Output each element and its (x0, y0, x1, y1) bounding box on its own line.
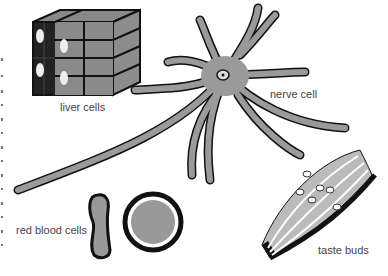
label-red-blood-cells: red blood cells (16, 224, 87, 236)
taste-buds-drawing (262, 150, 375, 258)
label-nerve-cell: nerve cell (270, 88, 317, 100)
liver-cells-drawing (33, 10, 140, 95)
red-blood-cells-drawing (90, 194, 181, 258)
margin-text-fragments (1, 58, 3, 246)
label-liver-cells: liver cells (60, 101, 105, 113)
cell-types-illustration: liver cells nerve cell red blood cells t… (0, 0, 388, 276)
label-taste-buds: taste buds (318, 244, 369, 256)
